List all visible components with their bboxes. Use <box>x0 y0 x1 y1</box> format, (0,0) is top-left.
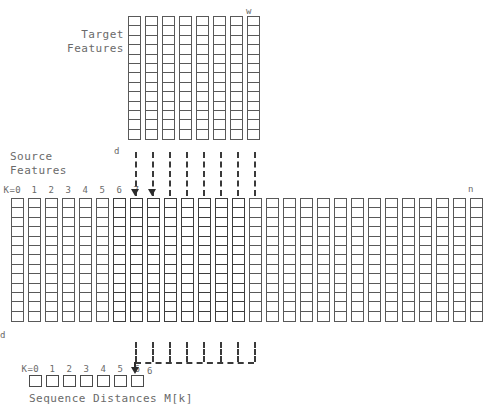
feature-column <box>215 198 228 322</box>
feature-cell <box>215 311 228 322</box>
feature-column <box>28 198 41 322</box>
feature-column <box>62 198 75 322</box>
feature-column <box>162 16 175 140</box>
feature-column <box>368 198 381 322</box>
feature-cell <box>11 311 24 322</box>
feature-cell <box>266 311 279 322</box>
feature-column <box>45 198 58 322</box>
feature-cell <box>79 311 92 322</box>
source-k-tick: K=0 <box>4 183 22 197</box>
source-features-label: SourceFeatures <box>10 150 67 178</box>
feature-column <box>334 198 347 322</box>
diagram-canvas: TargetFeatures SourceFeatures Sequence D… <box>0 0 504 415</box>
feature-cell <box>385 311 398 322</box>
source-column-arrow <box>131 189 139 196</box>
distance-k-tick: K=0 <box>22 362 40 376</box>
connector-line-upper <box>254 152 256 196</box>
connector-line-upper <box>203 152 205 196</box>
feature-column <box>11 198 24 322</box>
distance-box <box>46 375 59 387</box>
sequence-distances-label: Sequence Distances M[k] <box>29 392 193 406</box>
connector-line-upper <box>237 152 239 196</box>
distance-box <box>29 375 42 387</box>
feature-cell <box>453 311 466 322</box>
feature-column <box>164 198 177 322</box>
distance-k-tick: 1 <box>50 362 56 376</box>
feature-column <box>419 198 432 322</box>
connector-line-lower <box>203 342 205 362</box>
feature-cell <box>402 311 415 322</box>
feature-cell <box>128 129 141 140</box>
feature-cell <box>249 311 262 322</box>
feature-column <box>317 198 330 322</box>
connector-line-lower <box>186 342 188 362</box>
source-k-tick: 5 <box>100 183 106 197</box>
feature-column <box>230 16 243 140</box>
source-k-tick: 2 <box>49 183 55 197</box>
feature-cell <box>181 311 194 322</box>
feature-column <box>470 198 483 322</box>
feature-cell <box>179 129 192 140</box>
feature-column <box>232 198 245 322</box>
source-k-tick: 1 <box>32 183 38 197</box>
feature-column <box>145 16 158 140</box>
feature-cell <box>62 311 75 322</box>
feature-column <box>213 16 226 140</box>
distance-box <box>114 375 127 387</box>
distance-box <box>63 375 76 387</box>
feature-cell <box>147 311 160 322</box>
distance-arrow-head <box>131 367 139 374</box>
feature-cell <box>470 311 483 322</box>
feature-column <box>300 198 313 322</box>
feature-cell <box>230 129 243 140</box>
feature-cell <box>334 311 347 322</box>
feature-column <box>283 198 296 322</box>
distance-k-tick: 5 <box>118 362 124 376</box>
feature-column <box>198 198 211 322</box>
distance-k-tick: 3 <box>84 362 90 376</box>
feature-column <box>113 198 126 322</box>
feature-cell <box>145 129 158 140</box>
feature-cell <box>300 311 313 322</box>
feature-cell <box>45 311 58 322</box>
feature-column <box>385 198 398 322</box>
source-k-tick: 6 <box>117 183 123 197</box>
feature-column <box>147 198 160 322</box>
feature-cell <box>351 311 364 322</box>
feature-cell <box>196 129 209 140</box>
feature-cell <box>164 311 177 322</box>
feature-column <box>247 16 260 140</box>
feature-cell <box>368 311 381 322</box>
feature-column <box>179 16 192 140</box>
feature-cell <box>232 311 245 322</box>
connector-line-upper <box>186 152 188 196</box>
connector-line-lower <box>152 342 154 362</box>
distance-k-tick: 2 <box>67 362 73 376</box>
feature-column <box>453 198 466 322</box>
feature-column <box>96 198 109 322</box>
feature-cell <box>283 311 296 322</box>
feature-cell <box>162 129 175 140</box>
source-k-tick: 3 <box>66 183 72 197</box>
feature-cell <box>130 311 143 322</box>
connector-line-lower <box>254 342 256 362</box>
source-depth-label: d <box>0 328 6 342</box>
feature-column <box>266 198 279 322</box>
target-features-label: TargetFeatures <box>52 28 124 56</box>
connector-bracket <box>135 362 254 364</box>
source-k-tick: 4 <box>83 183 89 197</box>
feature-column <box>249 198 262 322</box>
source-column-arrow <box>148 189 156 196</box>
feature-column <box>196 16 209 140</box>
feature-cell <box>317 311 330 322</box>
connector-line-lower <box>169 342 171 362</box>
distance-box <box>97 375 110 387</box>
feature-column <box>128 16 141 140</box>
connector-line-upper <box>169 152 171 196</box>
target-depth-label: d <box>114 144 120 158</box>
feature-column <box>181 198 194 322</box>
distance-box <box>131 375 144 387</box>
arrow-index-label: 6 <box>147 364 153 378</box>
feature-cell <box>247 129 260 140</box>
connector-line-upper <box>220 152 222 196</box>
